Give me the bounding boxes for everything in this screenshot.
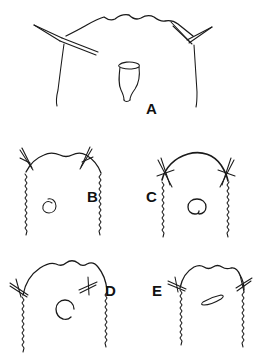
- panel-c-right-margin: [227, 182, 229, 237]
- panel-a-left-spine-upper: [34, 25, 62, 38]
- panel-a-central-vase-rim: [119, 62, 140, 69]
- panel-a-right-spine-barb-inner: [173, 26, 192, 44]
- panel-b-right-margin: [99, 174, 101, 235]
- panel-c-drawing: [157, 153, 235, 237]
- panel-e-slit-structure: [202, 295, 224, 305]
- panel-label-b: B: [87, 189, 98, 204]
- panel-a-left-spine-lower: [34, 25, 60, 41]
- panel-e-right-margin: [242, 292, 244, 347]
- panel-c-ring-structure: [188, 199, 206, 214]
- panel-a-left-spine-barb: [62, 38, 98, 52]
- panel-e-outline-crown: [180, 266, 244, 291]
- panel-c-left-margin: [162, 182, 164, 237]
- panel-d-right-margin: [105, 292, 107, 347]
- figure-drawing-canvas: [0, 0, 264, 360]
- panel-label-d: D: [105, 283, 116, 298]
- panel-d-outline-crown: [23, 261, 107, 295]
- panel-b-spiral-structure: [43, 199, 56, 213]
- panel-a-left-spine-barb-inner: [60, 41, 96, 55]
- page-edge-left: [0, 0, 3, 360]
- panel-c-outline-crown: [162, 153, 228, 181]
- page-edge-right: [261, 0, 264, 360]
- panel-a-drawing: [34, 15, 212, 107]
- panel-d-ring-structure: [56, 300, 74, 319]
- panel-e-drawing: [168, 266, 252, 348]
- panel-label-a: A: [146, 101, 157, 116]
- panel-b-outline-crown: [26, 153, 101, 173]
- panel-d-right-spine-cross: [88, 277, 89, 295]
- panel-a-left-body-side: [56, 44, 64, 106]
- panel-a-central-vase-body-right: [130, 67, 139, 100]
- panel-a-central-vase-foot: [124, 100, 130, 102]
- page-edge-top: [0, 0, 264, 3]
- panel-label-e: E: [152, 283, 162, 298]
- panel-a-right-body-side: [194, 45, 197, 107]
- panel-d-drawing: [10, 261, 107, 352]
- panel-b-left-spine-b: [22, 148, 32, 168]
- panel-e-left-margin: [180, 290, 182, 345]
- panel-label-c: C: [146, 189, 157, 204]
- panel-d-left-margin: [22, 297, 24, 352]
- panel-a-central-vase-body: [119, 67, 124, 100]
- figure-plate: A B C D E: [0, 0, 264, 360]
- panel-b-left-margin: [25, 174, 27, 235]
